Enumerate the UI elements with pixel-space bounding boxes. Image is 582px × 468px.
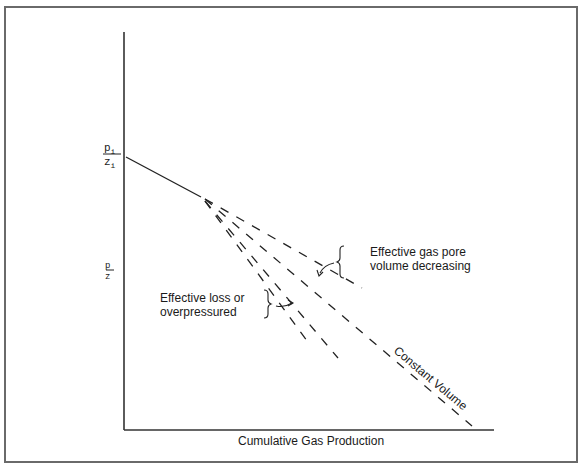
pore-annotation-line2: volume decreasing: [370, 259, 471, 273]
pore-brace-icon: [337, 246, 344, 278]
loss-annotation: Effective loss or overpressured: [160, 291, 244, 319]
loss-annotation-line1: Effective loss or: [160, 291, 244, 305]
initial-solid-line: [126, 157, 201, 197]
x-axis-label: Cumulative Gas Production: [238, 434, 384, 448]
loss-arrowhead-icon: [288, 300, 293, 306]
pore-volume-decreasing-line: [205, 199, 362, 288]
loss-annotation-line2: overpressured: [160, 305, 244, 319]
overpressured-line-b: [205, 201, 310, 345]
overpressured-line-a: [205, 201, 338, 358]
constant-volume-line: [205, 199, 472, 426]
pore-annotation-line1: Effective gas pore: [370, 245, 471, 259]
y-axis-z-label: z: [105, 270, 110, 284]
loss-brace-icon: [264, 290, 271, 318]
pz-plot: Constant Volume: [0, 0, 582, 468]
pore-volume-annotation: Effective gas pore volume decreasing: [370, 245, 471, 273]
constant-volume-label: Constant Volume: [391, 344, 470, 414]
zi-label: zi: [104, 155, 115, 173]
